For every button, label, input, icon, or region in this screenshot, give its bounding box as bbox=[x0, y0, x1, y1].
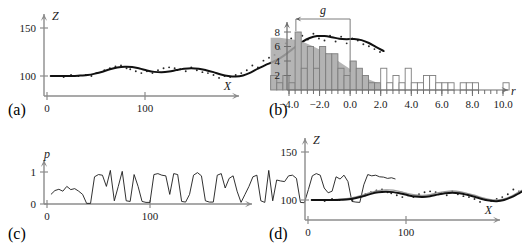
histogram-bar bbox=[368, 83, 374, 90]
panel-b-yticklabel: 8 bbox=[275, 26, 281, 38]
panel-a-yticklabel-1: 150 bbox=[20, 22, 37, 34]
histogram-bar bbox=[448, 83, 454, 90]
panel-b-label: (b) bbox=[269, 101, 288, 119]
data-point bbox=[507, 193, 509, 195]
histogram-bar bbox=[362, 76, 368, 91]
panel-c-xticklabel-1: 100 bbox=[142, 210, 159, 222]
panel-c-plot: 0 1 0 100 p bbox=[0, 124, 261, 248]
panel-b-xticklabel: 0.0 bbox=[343, 98, 357, 110]
panel-d-yticklabel-0: 100 bbox=[281, 194, 298, 206]
data-point bbox=[462, 195, 464, 197]
panel-d-curve-thin bbox=[312, 159, 522, 200]
data-point bbox=[512, 188, 514, 190]
data-point bbox=[479, 201, 481, 203]
panel-a-label: (a) bbox=[8, 101, 26, 119]
data-point bbox=[501, 196, 503, 198]
panel-a: 100 150 0 100 Z X (a) bbox=[0, 0, 261, 124]
histogram-bar bbox=[313, 68, 319, 90]
histogram-bar bbox=[307, 47, 313, 91]
panel-b-xticklabel: 10.0 bbox=[493, 98, 513, 110]
data-point bbox=[424, 191, 426, 193]
histogram-bar bbox=[460, 83, 466, 90]
data-point bbox=[196, 69, 198, 71]
panel-a-xticklabel-0: 0 bbox=[44, 102, 50, 114]
panel-b-xticklabel: 6.0 bbox=[435, 98, 449, 110]
panel-b-yticklabel: 4 bbox=[275, 55, 281, 67]
data-point bbox=[140, 72, 142, 74]
data-point bbox=[129, 68, 131, 70]
data-point bbox=[135, 70, 137, 72]
panel-b: −4.0−2.00.02.04.06.08.010.0 2468 g r (b) bbox=[261, 0, 522, 124]
histogram-bar bbox=[381, 68, 387, 90]
panel-b-xticklabel: 8.0 bbox=[466, 98, 480, 110]
panel-b-xticklabels: −4.0−2.00.02.04.06.08.010.0 bbox=[279, 98, 513, 110]
panel-b-yticklabel: 6 bbox=[275, 40, 281, 52]
histogram-bar bbox=[375, 83, 381, 90]
histogram-bar bbox=[356, 68, 362, 90]
figure-container: 100 150 0 100 Z X (a) −4.0−2 bbox=[0, 0, 522, 248]
histogram-bar bbox=[411, 83, 417, 90]
panel-b-plot: −4.0−2.00.02.04.06.08.010.0 2468 g r bbox=[261, 0, 522, 124]
data-point bbox=[401, 196, 403, 198]
data-point bbox=[213, 74, 215, 76]
histogram-bar bbox=[430, 76, 436, 91]
panel-b-xticklabel: 4.0 bbox=[404, 98, 418, 110]
data-point bbox=[240, 72, 242, 74]
panel-c-ylabel: p bbox=[43, 147, 50, 161]
data-point bbox=[429, 190, 431, 192]
histogram-bar bbox=[283, 76, 289, 91]
g-annotation-label: g bbox=[320, 3, 326, 17]
panel-a-yticklabel-0: 100 bbox=[20, 70, 37, 82]
panel-d-xticklabel-1: 100 bbox=[398, 226, 415, 238]
histogram-bar bbox=[301, 68, 307, 90]
histogram-bar bbox=[289, 83, 295, 90]
panel-b-xlabel: r bbox=[511, 84, 516, 98]
panel-c: 0 1 0 100 p (c) bbox=[0, 124, 261, 248]
data-point bbox=[207, 72, 209, 74]
histogram-bar bbox=[320, 47, 326, 91]
panel-a-ylabel: Z bbox=[52, 9, 59, 23]
panel-c-label: (c) bbox=[8, 225, 26, 243]
data-point bbox=[446, 194, 448, 196]
data-point bbox=[396, 194, 398, 196]
histogram-bar bbox=[344, 76, 350, 91]
histogram-bar bbox=[472, 83, 478, 90]
histogram-bar bbox=[326, 54, 332, 90]
panel-d-xticklabel-0: 0 bbox=[305, 226, 311, 238]
histogram-bar bbox=[338, 68, 344, 90]
histogram-bar bbox=[424, 76, 430, 91]
data-point bbox=[168, 66, 170, 68]
panel-b-xticklabel: −2.0 bbox=[310, 98, 330, 110]
panel-d: 100 150 0 100 Z X (d) bbox=[261, 124, 522, 248]
data-point bbox=[185, 70, 187, 72]
panel-d-yticklabel-1: 150 bbox=[281, 146, 298, 158]
histogram-bar bbox=[393, 76, 399, 91]
panel-c-yticklabel-1: 1 bbox=[31, 166, 37, 178]
panel-d-label: (d) bbox=[269, 225, 288, 243]
data-point bbox=[157, 69, 159, 71]
data-point bbox=[246, 69, 248, 71]
histogram-bar bbox=[466, 83, 472, 90]
panel-b-xticklabel: 2.0 bbox=[374, 98, 388, 110]
data-point bbox=[218, 77, 220, 79]
panel-c-yticklabel-0: 0 bbox=[31, 198, 37, 210]
histogram-bar bbox=[277, 83, 283, 90]
histogram-bar bbox=[387, 83, 393, 90]
data-point bbox=[201, 71, 203, 73]
panel-a-plot: 100 150 0 100 Z X bbox=[0, 0, 261, 124]
panel-b-yticklabel: 2 bbox=[275, 69, 281, 81]
panel-d-plot: 100 150 0 100 Z X bbox=[261, 124, 522, 248]
histogram-bar bbox=[417, 83, 423, 90]
histogram-bar bbox=[295, 32, 301, 90]
panel-a-xlabel: X bbox=[223, 79, 232, 93]
histogram-bar bbox=[442, 83, 448, 90]
data-point bbox=[163, 67, 165, 69]
panel-a-xticklabel-1: 100 bbox=[137, 102, 154, 114]
panel-d-xlabel: X bbox=[484, 203, 493, 217]
histogram-bar bbox=[436, 83, 442, 90]
histogram-bar bbox=[399, 83, 405, 90]
panel-d-ylabel: Z bbox=[313, 133, 320, 147]
histogram-bar bbox=[350, 61, 356, 90]
histogram-bar bbox=[405, 68, 411, 90]
histogram-bar bbox=[332, 54, 338, 90]
